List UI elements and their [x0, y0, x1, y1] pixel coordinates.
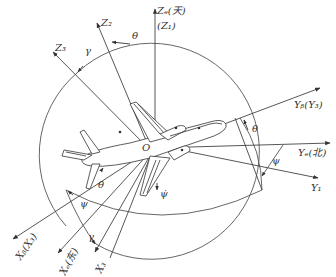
axis-xe — [58, 152, 150, 253]
origin-label: O — [142, 143, 150, 153]
label-ye: Yₑ(北) — [298, 148, 326, 158]
label-z2: Z₂ — [101, 18, 112, 28]
label-ze: Zₑ(天) — [157, 6, 186, 16]
right-arc — [240, 118, 262, 190]
angle-theta-dot: θ̇ — [98, 180, 104, 190]
label-y1: Y₁ — [311, 183, 322, 193]
reference-arc-left — [39, 72, 78, 226]
angle-psi-dot: ψ̇ — [160, 189, 168, 199]
axis-xb — [13, 150, 150, 239]
angle-theta-right: θ — [252, 124, 258, 134]
label-yb: Yᵦ(Y₃) — [294, 100, 323, 110]
label-z1: (Z₁) — [157, 21, 176, 31]
angle-theta-top: θ — [132, 31, 138, 41]
angle-psi-right: ψ — [272, 156, 280, 166]
angle-gamma-top: γ — [85, 46, 91, 56]
axis-z3 — [53, 52, 150, 150]
label-z3: Z₃ — [55, 43, 66, 53]
axis-z2 — [97, 23, 150, 150]
angle-gamma-bottom: γ — [88, 232, 94, 242]
angle-psi-bottom: ψ — [80, 199, 88, 209]
